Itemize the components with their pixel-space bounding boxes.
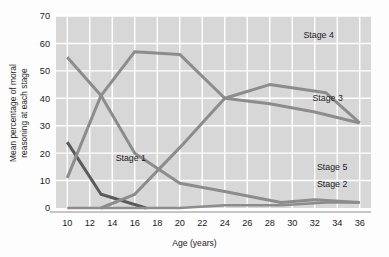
y-tick-label: 70 xyxy=(40,11,50,21)
x-tick-label: 24 xyxy=(220,218,230,228)
y-tick-label: 60 xyxy=(40,39,50,49)
y-tick-label: 30 xyxy=(40,121,50,131)
x-tick-label: 22 xyxy=(197,218,207,228)
x-tick-label: 28 xyxy=(265,218,275,228)
x-tick-label: 16 xyxy=(130,218,140,228)
x-axis-tick-labels: 1012141618202224262830323436 xyxy=(62,218,365,228)
y-tick-label: 0 xyxy=(45,203,50,213)
x-tick-label: 18 xyxy=(152,218,162,228)
y-tick-label: 50 xyxy=(40,66,50,76)
y-axis-tick-labels: 010203040506070 xyxy=(40,11,50,213)
moral-reasoning-line-chart: Mean percentage of moral reasoning at ea… xyxy=(0,0,389,257)
x-tick-label: 10 xyxy=(62,218,72,228)
y-tick-label: 10 xyxy=(40,176,50,186)
series-label-stage-5: Stage 5 xyxy=(317,162,347,172)
x-tick-label: 20 xyxy=(175,218,185,228)
series-label-stage-1: Stage 1 xyxy=(116,153,146,163)
y-tick-label: 40 xyxy=(40,94,50,104)
x-axis-title: Age (years) xyxy=(0,238,389,248)
y-tick-label: 20 xyxy=(40,149,50,159)
series-label-stage-2: Stage 2 xyxy=(317,179,347,189)
series-label-stage-3: Stage 3 xyxy=(313,93,343,103)
x-tick-label: 14 xyxy=(107,218,117,228)
x-tick-label: 36 xyxy=(355,218,365,228)
plot-svg: 010203040506070 101214161820222426283032… xyxy=(0,0,389,257)
x-tick-label: 12 xyxy=(85,218,95,228)
x-tick-label: 34 xyxy=(332,218,342,228)
x-tick-label: 32 xyxy=(310,218,320,228)
x-tick-label: 30 xyxy=(287,218,297,228)
x-tick-label: 26 xyxy=(242,218,252,228)
series-label-stage-4: Stage 4 xyxy=(304,30,334,40)
